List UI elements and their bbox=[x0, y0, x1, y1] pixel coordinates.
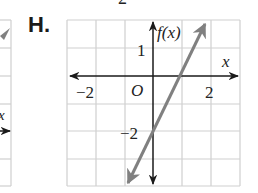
x-tick-neg2: −2 bbox=[76, 83, 94, 102]
x-axis-label: x bbox=[221, 52, 230, 71]
x-tick-2: 2 bbox=[205, 83, 214, 102]
graphs-svg: x f( bbox=[0, 0, 258, 193]
math-problem-figure: 2 H. x bbox=[0, 0, 258, 193]
left-x-axis-label: x bbox=[0, 107, 5, 123]
left-line-arrow-icon bbox=[0, 28, 10, 40]
function-label: f(x) bbox=[157, 23, 181, 42]
y-tick-neg2: −2 bbox=[120, 124, 138, 143]
graph-h: f(x) x O 1 −2 2 −2 bbox=[67, 20, 240, 186]
origin-label: O bbox=[131, 81, 143, 100]
left-graph-fragment: x bbox=[0, 20, 11, 186]
y-tick-1: 1 bbox=[137, 41, 146, 60]
